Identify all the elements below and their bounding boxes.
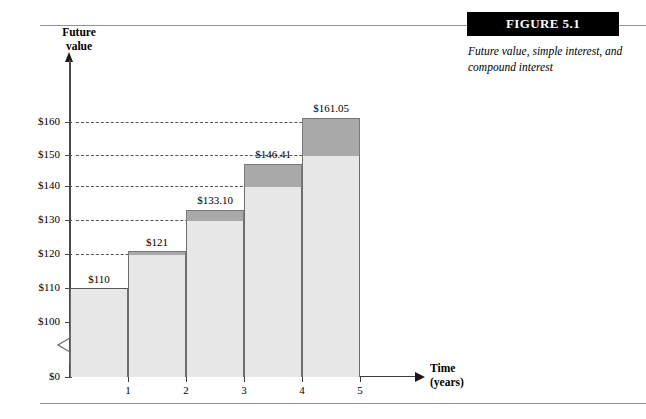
x-axis-title: Time (years) [430, 361, 520, 389]
y-tick-0 [65, 377, 72, 378]
x-tick-label-4: 4 [287, 384, 317, 396]
bar-year-3-compound [186, 210, 244, 221]
x-axis-title-line2: (years) [430, 375, 520, 389]
bar-year-1-simple [70, 288, 128, 377]
y-tick-label-100: $100 [14, 315, 60, 327]
bar-chart: Future value Time (years) $160 $150 $140… [0, 0, 646, 419]
bar-year-4-compound [244, 164, 302, 187]
bar-year-4-simple [244, 186, 302, 377]
bar-year-3-simple [186, 220, 244, 377]
y-tick-130 [65, 220, 72, 221]
bar-year-2-compound [128, 251, 186, 255]
x-tick-2 [186, 377, 187, 382]
y-tick-160 [65, 122, 72, 123]
y-tick-140 [65, 186, 72, 187]
y-tick-label-140: $140 [14, 179, 60, 191]
y-tick-label-130: $130 [14, 213, 60, 225]
y-tick-150 [65, 155, 72, 156]
y-tick-label-150: $150 [14, 148, 60, 160]
x-tick-1 [128, 377, 129, 382]
bar-year-5 [302, 118, 360, 377]
x-axis-arrow-icon [415, 372, 425, 382]
x-tick-label-3: 3 [229, 384, 259, 396]
y-tick-label-110: $110 [14, 281, 60, 293]
y-tick-label-160: $160 [14, 115, 60, 127]
x-tick-label-1: 1 [113, 384, 143, 396]
y-tick-label-120: $120 [14, 247, 60, 259]
x-tick-4 [302, 377, 303, 382]
y-axis-title: Future value [42, 25, 116, 53]
bar-year-5-compound [302, 118, 360, 156]
bar-year-2 [128, 251, 186, 377]
bar-year-1 [70, 288, 128, 377]
figure-page: FIGURE 5.1 Future value, simple interest… [0, 0, 646, 419]
bar-year-3 [186, 210, 244, 377]
bar-year-5-simple [302, 155, 360, 377]
x-tick-label-5: 5 [345, 384, 375, 396]
y-tick-120 [65, 254, 72, 255]
x-tick-3 [244, 377, 245, 382]
y-axis-title-line2: value [42, 39, 116, 53]
x-axis-title-line1: Time [430, 361, 520, 375]
bar-year-4 [244, 164, 302, 377]
x-tick-label-2: 2 [171, 384, 201, 396]
y-tick-label-0: $0 [14, 370, 60, 382]
y-axis-title-line1: Future [42, 25, 116, 39]
bar-year-2-simple [128, 254, 186, 377]
bar-label-year-5: $161.05 [288, 102, 374, 114]
x-tick-5 [360, 377, 361, 382]
